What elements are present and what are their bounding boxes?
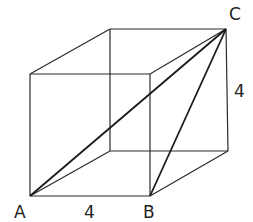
label-edge-AB: 4: [84, 202, 95, 222]
edge-bottom-right-depth: [150, 151, 228, 196]
label-A: A: [14, 202, 26, 222]
label-B: B: [143, 202, 155, 222]
diagonal-AC: [30, 29, 226, 196]
diagonal-BC: [150, 29, 226, 196]
edge-top-right-depth: [150, 29, 226, 74]
diagonals: [30, 29, 226, 196]
front-face: [30, 74, 150, 196]
edge-top-left-depth: [30, 29, 110, 74]
edge-bottom-left-depth: [30, 151, 110, 196]
cube-diagram: A 4 B C 4: [0, 0, 253, 222]
back-face: [110, 29, 228, 151]
label-C: C: [229, 4, 241, 24]
label-edge-vertical: 4: [234, 81, 245, 101]
edge-back-right: [226, 29, 228, 151]
